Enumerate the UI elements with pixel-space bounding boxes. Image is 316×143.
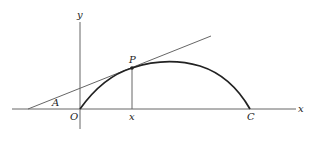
angle-a-label: A <box>51 97 59 108</box>
foot-x-label: x <box>129 111 135 122</box>
point-p-marker <box>130 66 134 70</box>
point-p-label: P <box>128 54 136 65</box>
y-axis-label: y <box>76 9 83 20</box>
diagram-canvas: y x O P C A x <box>0 0 316 143</box>
origin-label: O <box>70 111 78 122</box>
curve <box>80 62 250 109</box>
x-axis-label: x <box>298 103 304 114</box>
point-c-label: C <box>247 111 255 122</box>
